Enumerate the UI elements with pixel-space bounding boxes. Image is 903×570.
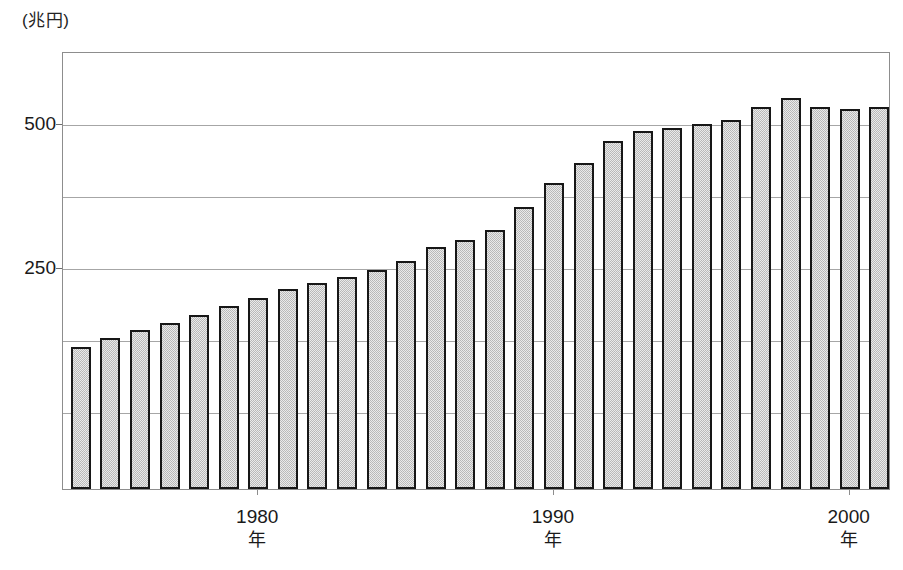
bar bbox=[367, 270, 387, 489]
y-axis-tick-label: 500 bbox=[0, 113, 56, 135]
y-axis-tick-label: 250 bbox=[0, 257, 56, 279]
x-axis-tick-mark bbox=[849, 490, 850, 495]
plot-area bbox=[62, 52, 890, 490]
x-axis-tick-year: 1980 bbox=[236, 505, 278, 529]
bar bbox=[721, 120, 741, 489]
x-axis-tick-mark bbox=[257, 490, 258, 495]
x-axis-unit-label: 年 bbox=[532, 529, 574, 552]
bar bbox=[544, 183, 564, 489]
bar bbox=[100, 338, 120, 489]
bar bbox=[514, 207, 534, 489]
bar bbox=[840, 109, 860, 489]
bar bbox=[396, 261, 416, 489]
bar bbox=[337, 277, 357, 489]
x-axis-tick-mark bbox=[553, 490, 554, 495]
x-axis-unit-label: 年 bbox=[236, 529, 278, 552]
bar bbox=[278, 289, 298, 489]
bar bbox=[633, 131, 653, 490]
bar bbox=[662, 128, 682, 489]
bar-series bbox=[63, 53, 889, 489]
bar bbox=[307, 283, 327, 489]
bar bbox=[603, 141, 623, 489]
bar bbox=[426, 247, 446, 489]
bar bbox=[751, 107, 771, 489]
x-axis-tick-year: 2000 bbox=[828, 505, 870, 529]
bar bbox=[248, 298, 268, 489]
bar bbox=[574, 163, 594, 489]
bar bbox=[781, 98, 801, 489]
x-axis-tick-year: 1990 bbox=[532, 505, 574, 529]
bar bbox=[485, 230, 505, 489]
x-axis-tick-label: 2000年 bbox=[828, 505, 870, 551]
bar bbox=[455, 240, 475, 489]
bar bbox=[869, 107, 889, 489]
bar bbox=[71, 347, 91, 490]
x-axis-tick-label: 1980年 bbox=[236, 505, 278, 551]
y-axis-unit-label: (兆円) bbox=[22, 6, 69, 31]
bar bbox=[810, 107, 830, 489]
bar bbox=[692, 124, 712, 489]
bar bbox=[219, 306, 239, 489]
bar bbox=[160, 323, 180, 489]
x-axis-tick-label: 1990年 bbox=[532, 505, 574, 551]
bar bbox=[130, 330, 150, 489]
chart-figure: (兆円) 500250 1980年1990年2000年 bbox=[0, 0, 903, 570]
x-axis-unit-label: 年 bbox=[828, 529, 870, 552]
bar bbox=[189, 315, 209, 489]
